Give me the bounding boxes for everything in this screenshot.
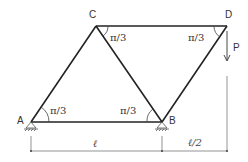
- angle-arc-A: [41, 107, 49, 122]
- angle-label-A: π/3: [50, 105, 66, 116]
- node-label-D: D: [225, 9, 232, 20]
- dimension-label-l: ℓ: [93, 138, 97, 149]
- load-label-P: P: [233, 42, 240, 53]
- node-label-C: C: [89, 9, 96, 20]
- angle-label-D: π/3: [188, 32, 204, 43]
- dimension-label-l-half: ℓ/2: [188, 137, 202, 148]
- support-triangle-icon: [26, 122, 36, 128]
- angle-label-C: π/3: [110, 32, 126, 43]
- truss-diagram: π/3 π/3 π/3 π/3 A B C D P ℓ ℓ: [0, 0, 248, 162]
- node-label-A: A: [17, 115, 24, 126]
- support-triangle-icon: [157, 122, 167, 128]
- angle-arc-C: [103, 26, 108, 36]
- load-arrow-P: [224, 31, 230, 61]
- angle-arc-B: [147, 109, 153, 122]
- tick: [226, 150, 228, 152]
- angle-label-B: π/3: [120, 105, 136, 116]
- pin-support-A: [24, 122, 38, 131]
- node-label-B: B: [169, 115, 176, 126]
- pin-support-B: [155, 122, 169, 131]
- tick: [161, 150, 163, 152]
- angle-arc-D: [214, 26, 220, 37]
- tick: [30, 150, 32, 152]
